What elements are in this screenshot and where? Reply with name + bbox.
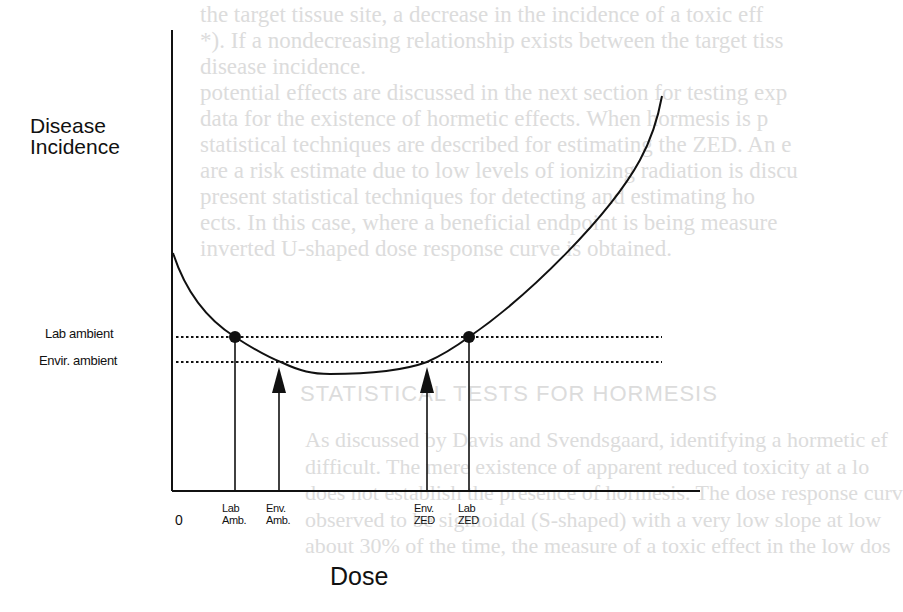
env-zed-label: Env. ZED: [414, 502, 435, 526]
x-axis-label: Dose: [330, 562, 388, 591]
env-zed-arrow-icon: [420, 367, 434, 393]
y-axis-label: Disease Incidence: [30, 115, 120, 157]
tick-label-line: Env.: [414, 502, 435, 514]
origin-label: 0: [175, 512, 183, 528]
y-axis-label-line: Disease: [30, 115, 120, 136]
lab-amb-label: Lab Amb.: [222, 502, 246, 526]
lab-ambient-label: Lab ambient: [45, 326, 113, 341]
tick-label-line: Lab: [458, 502, 479, 514]
dose-response-curve: [173, 96, 662, 374]
tick-label-line: Lab: [222, 502, 246, 514]
tick-label-line: Env.: [266, 502, 290, 514]
env-amb-label: Env. Amb.: [266, 502, 290, 526]
y-axis-label-line: Incidence: [30, 136, 120, 157]
env-amb-arrow-icon: [272, 367, 286, 393]
lab-zed-label: Lab ZED: [458, 502, 479, 526]
tick-label-line: ZED: [458, 514, 479, 526]
tick-label-line: ZED: [414, 514, 435, 526]
tick-label-line: Amb.: [222, 514, 246, 526]
tick-label-line: Amb.: [266, 514, 290, 526]
envir-ambient-label: Envir. ambient: [39, 353, 117, 368]
